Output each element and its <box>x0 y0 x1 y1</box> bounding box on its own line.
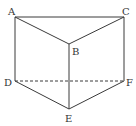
prism-diagram: A C B D F E <box>0 0 136 126</box>
edge-ef <box>69 81 124 109</box>
vertex-label-a: A <box>7 6 16 17</box>
vertex-label-b: B <box>72 46 79 57</box>
edge-bc <box>69 17 124 44</box>
edge-ab <box>15 17 69 44</box>
vertex-label-e: E <box>65 113 72 124</box>
edge-de <box>15 81 69 109</box>
vertex-label-c: C <box>122 6 130 17</box>
vertex-label-f: F <box>126 77 133 88</box>
vertex-label-d: D <box>4 77 12 88</box>
